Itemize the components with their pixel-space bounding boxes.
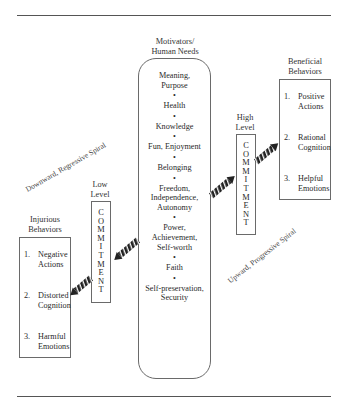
spiral-arrow-icon	[253, 140, 281, 166]
spiral-arrow-icon	[67, 275, 93, 299]
spiral-arrow-icon	[208, 173, 238, 200]
spiral-arrows	[0, 0, 350, 411]
spiral-arrow-icon	[111, 237, 141, 264]
